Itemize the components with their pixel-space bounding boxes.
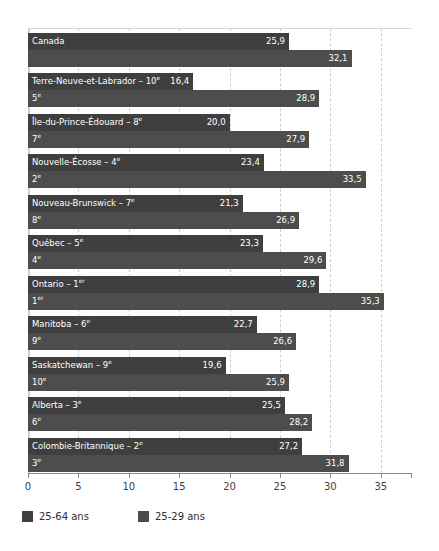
x-tick — [330, 473, 331, 478]
bar-25-29 — [28, 455, 349, 472]
bar-group: Canada25,932,1 — [28, 33, 411, 67]
category-label: Terre-Neuve-et-Labrador – 10e — [32, 73, 160, 90]
bar-group: Île-du-Prince-Édouard – 8e20,07e27,9 — [28, 114, 411, 148]
bar-value-label: 19,6 — [200, 357, 222, 374]
x-tick-label: 25 — [274, 481, 287, 492]
bar-value-label: 23,4 — [238, 154, 260, 171]
x-tick-label: 20 — [223, 481, 236, 492]
rank-label: 4e — [32, 252, 41, 269]
bar-25-29 — [28, 50, 352, 67]
bar-value-label: 22,7 — [231, 316, 253, 333]
bar-group: Nouvelle-Écosse – 4e23,42e33,5 — [28, 154, 411, 188]
rank-label: 7e — [32, 131, 41, 148]
category-label: Saskatchewan – 9e — [32, 357, 112, 374]
bar-value-label: 32,1 — [326, 50, 348, 67]
bar-25-64 — [28, 33, 289, 50]
x-tick-label: 0 — [25, 481, 31, 492]
legend-label: 25-64 ans — [39, 511, 89, 522]
bar-25-29 — [28, 374, 289, 391]
bar-rows: Canada25,932,1Terre-Neuve-et-Labrador – … — [28, 28, 411, 473]
bar-value-label: 29,6 — [300, 252, 322, 269]
category-label: Ontario – 1er — [32, 276, 85, 293]
rank-label: 5e — [32, 90, 41, 107]
x-tick — [129, 473, 130, 478]
bar-value-label: 28,2 — [286, 414, 308, 431]
x-axis-end-tick — [411, 473, 412, 478]
chart-root: Canada25,932,1Terre-Neuve-et-Labrador – … — [0, 0, 439, 551]
bar-value-label: 27,9 — [283, 131, 305, 148]
category-label: Colombie-Britannique – 2e — [32, 438, 143, 455]
legend-swatch-icon — [22, 511, 33, 522]
bar-group: Saskatchewan – 9e19,610e25,9 — [28, 357, 411, 391]
category-label: Alberta – 3e — [32, 397, 81, 414]
bar-value-label: 28,9 — [293, 90, 315, 107]
bar-group: Colombie-Britannique – 2e27,23e31,8 — [28, 438, 411, 472]
bar-value-label: 16,4 — [167, 73, 189, 90]
rank-label: 3e — [32, 455, 41, 472]
bar-group: Ontario – 1er28,91er35,3 — [28, 276, 411, 310]
legend-label: 25-29 ans — [155, 511, 205, 522]
x-tick — [78, 473, 79, 478]
bar-value-label: 25,9 — [263, 374, 285, 391]
x-tick-label: 15 — [173, 481, 186, 492]
rank-label: 10e — [32, 374, 46, 391]
bar-value-label: 35,3 — [358, 293, 380, 310]
x-tick — [280, 473, 281, 478]
bar-25-29 — [28, 131, 309, 148]
legend-swatch-icon — [138, 511, 149, 522]
bar-25-29 — [28, 212, 299, 229]
bar-value-label: 33,5 — [340, 171, 362, 188]
bar-value-label: 20,0 — [204, 114, 226, 131]
x-tick-label: 35 — [374, 481, 387, 492]
rank-label: 8e — [32, 212, 41, 229]
bar-value-label: 21,3 — [217, 195, 239, 212]
bar-group: Alberta – 3e25,56e28,2 — [28, 397, 411, 431]
bar-group: Manitoba – 6e22,79e26,6 — [28, 316, 411, 350]
bar-value-label: 25,9 — [263, 33, 285, 50]
legend-item: 25-29 ans — [138, 506, 205, 522]
category-label: Manitoba – 6e — [32, 316, 90, 333]
bar-25-29 — [28, 414, 312, 431]
bar-25-29 — [28, 171, 366, 188]
bar-value-label: 28,9 — [293, 276, 315, 293]
bar-group: Québec – 5e23,34e29,6 — [28, 235, 411, 269]
category-label: Nouveau-Brunswick – 7e — [32, 195, 135, 212]
x-tick-label: 30 — [324, 481, 337, 492]
x-tick — [381, 473, 382, 478]
legend-item: 25-64 ans — [22, 506, 89, 522]
bar-group: Terre-Neuve-et-Labrador – 10e16,45e28,9 — [28, 73, 411, 107]
x-tick — [28, 473, 29, 478]
bar-25-29 — [28, 333, 296, 350]
x-tick — [179, 473, 180, 478]
category-label: Québec – 5e — [32, 235, 83, 252]
category-label: Île-du-Prince-Édouard – 8e — [32, 114, 142, 131]
rank-label: 2e — [32, 171, 41, 188]
x-tick-label: 10 — [122, 481, 135, 492]
bar-value-label: 26,6 — [270, 333, 292, 350]
bar-value-label: 27,2 — [276, 438, 298, 455]
bar-value-label: 26,9 — [273, 212, 295, 229]
bar-25-29 — [28, 293, 384, 310]
bar-value-label: 31,8 — [323, 455, 345, 472]
rank-label: 6e — [32, 414, 41, 431]
category-label: Canada — [32, 33, 64, 50]
x-axis-line — [28, 473, 411, 474]
bar-group: Nouveau-Brunswick – 7e21,38e26,9 — [28, 195, 411, 229]
bar-25-29 — [28, 90, 319, 107]
rank-label: 9e — [32, 333, 41, 350]
bar-value-label: 23,3 — [237, 235, 259, 252]
x-tick-label: 5 — [75, 481, 81, 492]
bar-value-label: 25,5 — [259, 397, 281, 414]
category-label: Nouvelle-Écosse – 4e — [32, 154, 120, 171]
rank-label: 1er — [32, 293, 43, 310]
bar-25-29 — [28, 252, 326, 269]
x-tick — [230, 473, 231, 478]
